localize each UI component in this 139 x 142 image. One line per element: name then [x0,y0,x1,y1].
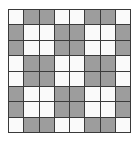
grid-cell [24,71,39,86]
grid-row [9,25,131,40]
grid-cell [9,71,24,86]
grid-cell [115,117,130,132]
grid-cell [9,102,24,117]
grid-cell [9,117,24,132]
grid-container [8,9,131,133]
grid-row [9,102,131,117]
grid-cell [115,71,130,86]
grid-cell [100,102,115,117]
grid-cell [100,25,115,40]
grid-cell [85,56,100,71]
grid-cell [9,25,24,40]
grid-cell [100,56,115,71]
grid-cell [24,10,39,25]
grid-cell [54,102,69,117]
grid-cell [24,102,39,117]
grid-cell [85,25,100,40]
grid-cell [24,40,39,55]
grid-row [9,10,131,25]
grid-cell [39,40,54,55]
grid-cell [115,40,130,55]
grid-cell [85,10,100,25]
grid-cell [9,86,24,101]
pattern-figure [0,0,139,142]
grid-cell [39,25,54,40]
grid-cell [70,117,85,132]
grid-cell [70,102,85,117]
grid-body [9,10,131,133]
grid-cell [85,71,100,86]
grid-cell [24,25,39,40]
grid-cell [85,40,100,55]
grid-cell [70,40,85,55]
grid-cell [70,86,85,101]
grid-cell [54,117,69,132]
grid-cell [54,56,69,71]
grid-cell [39,56,54,71]
grid-cell [24,56,39,71]
grid-cell [115,102,130,117]
grid-row [9,117,131,132]
grid-cell [39,102,54,117]
grid-cell [54,25,69,40]
grid-cell [85,117,100,132]
grid-cell [115,86,130,101]
grid-cell [54,71,69,86]
grid-cell [85,86,100,101]
grid-cell [100,40,115,55]
grid-cell [70,56,85,71]
grid-row [9,71,131,86]
grid-row [9,40,131,55]
grid-cell [100,86,115,101]
grid-cell [54,86,69,101]
grid-cell [24,117,39,132]
grid-cell [54,40,69,55]
grid-cell [39,117,54,132]
grid-cell [85,102,100,117]
grid-cell [100,71,115,86]
grid-cell [9,10,24,25]
pattern-grid-table [8,9,131,133]
grid-cell [70,25,85,40]
grid-cell [115,10,130,25]
grid-cell [39,86,54,101]
grid-cell [115,25,130,40]
grid-cell [9,40,24,55]
grid-row [9,86,131,101]
grid-cell [115,56,130,71]
grid-cell [70,10,85,25]
grid-cell [39,10,54,25]
grid-cell [54,10,69,25]
grid-cell [39,71,54,86]
grid-cell [24,86,39,101]
grid-cell [100,10,115,25]
grid-row [9,56,131,71]
grid-cell [9,56,24,71]
grid-cell [100,117,115,132]
grid-cell [70,71,85,86]
